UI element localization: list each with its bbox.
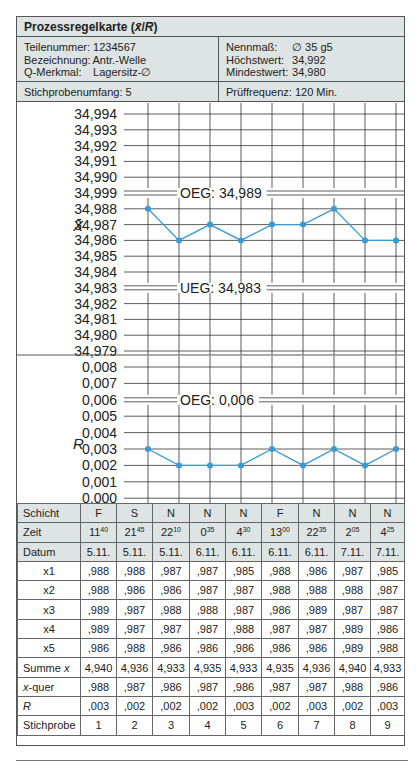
y-tick-label: 34,982 [74, 296, 117, 312]
table-cell: 6.11. [226, 542, 262, 561]
table-cell: ,987 [190, 581, 226, 600]
y-tick-label: 34,984 [74, 264, 117, 280]
table-row: x-quer,988,987,986,987,986,987,987,988,9… [18, 677, 405, 696]
data-point[interactable] [393, 237, 399, 243]
row-label: Summe x [18, 658, 81, 677]
table-cell: ,989 [81, 619, 117, 638]
data-point[interactable] [176, 462, 182, 468]
y-tick-label: 34,999 [74, 185, 117, 201]
table-cell: ,986 [153, 677, 190, 696]
control-limit-label: OEG: 0,006 [180, 392, 254, 408]
row-label: x-quer [18, 677, 81, 696]
table-cell: 6.11. [190, 542, 226, 561]
row-label: Schicht [18, 504, 81, 523]
table-cell: N [299, 504, 335, 523]
row-label: Zeit [18, 523, 81, 542]
data-point[interactable] [331, 206, 337, 212]
table-cell: ,003 [371, 696, 405, 715]
table-cell: ,986 [153, 581, 190, 600]
row-label: x2 [18, 581, 81, 600]
data-point[interactable] [300, 222, 306, 228]
table-cell: ,989 [335, 619, 371, 638]
table-cell: ,986 [262, 600, 299, 619]
table-row: SchichtFSNNNFNNN [18, 504, 405, 523]
table-cell: ,987 [335, 600, 371, 619]
table-cell: 2210 [153, 523, 190, 542]
table-cell: ,988 [117, 561, 153, 580]
table-cell: ,987 [335, 561, 371, 580]
table-row: Datum5.11.5.11.5.11.6.11.6.11.6.11.6.11.… [18, 542, 405, 561]
table-cell: 4,936 [299, 658, 335, 677]
table-cell: ,988 [226, 619, 262, 638]
table-cell: 4,933 [371, 658, 405, 677]
table-cell: ,986 [299, 639, 335, 658]
table-cell: ,003 [299, 696, 335, 715]
table-row: x5,986,988,986,986,986,986,986,989,988 [18, 639, 405, 658]
row-label: x5 [18, 639, 81, 658]
table-cell: ,002 [335, 696, 371, 715]
control-charts: 34,99434,99334,99234,99134,99034,999OEG:… [17, 17, 404, 503]
data-point[interactable] [362, 462, 368, 468]
data-point[interactable] [300, 462, 306, 468]
y-tick-label: 0,003 [82, 441, 117, 457]
table-cell: ,003 [226, 696, 262, 715]
y-tick-label: 34,988 [74, 201, 117, 217]
table-cell: 4 [190, 716, 226, 735]
table-cell: ,002 [190, 696, 226, 715]
table-cell: 7 [299, 716, 335, 735]
y-tick-label: 34,986 [74, 232, 117, 248]
table-cell: N [371, 504, 405, 523]
table-row: x2,988,986,986,987,987,988,988,988,987 [18, 581, 405, 600]
table-cell: ,986 [117, 581, 153, 600]
table-cell: N [226, 504, 262, 523]
table-cell: 7.11. [371, 542, 405, 561]
table-cell: F [81, 504, 117, 523]
y-tick-label: 34,980 [74, 327, 117, 343]
y-tick-label: 0,007 [82, 375, 117, 391]
data-point[interactable] [362, 237, 368, 243]
table-cell: ,986 [371, 677, 405, 696]
data-point[interactable] [207, 462, 213, 468]
table-cell: 8 [335, 716, 371, 735]
table-cell: ,986 [81, 639, 117, 658]
table-cell: F [262, 504, 299, 523]
table-cell: 5.11. [153, 542, 190, 561]
table-cell: ,986 [190, 639, 226, 658]
table-cell: ,987 [190, 677, 226, 696]
table-row: Zeit11402145221003543013002235205425 [18, 523, 405, 542]
data-point[interactable] [269, 446, 275, 452]
data-point[interactable] [238, 237, 244, 243]
y-tick-label: 0,008 [82, 359, 117, 375]
data-point[interactable] [207, 222, 213, 228]
table-cell: ,986 [262, 639, 299, 658]
data-point[interactable] [238, 462, 244, 468]
data-point[interactable] [393, 446, 399, 452]
data-point[interactable] [176, 237, 182, 243]
table-cell: ,989 [81, 600, 117, 619]
table-cell: ,988 [153, 600, 190, 619]
table-cell: ,986 [153, 639, 190, 658]
table-cell: 2 [117, 716, 153, 735]
data-point[interactable] [145, 206, 151, 212]
y-tick-label: 34,991 [74, 153, 117, 169]
table-cell: 4,940 [335, 658, 371, 677]
table-cell: ,988 [117, 639, 153, 658]
table-cell: 5.11. [117, 542, 153, 561]
table-cell: 430 [226, 523, 262, 542]
data-point[interactable] [269, 222, 275, 228]
y-tick-label: 0,005 [82, 408, 117, 424]
table-row: R,003,002,002,002,003,002,003,002,003 [18, 696, 405, 715]
y-tick-label: 34,990 [74, 169, 117, 185]
table-cell: ,988 [335, 677, 371, 696]
data-point[interactable] [331, 446, 337, 452]
table-cell: ,003 [81, 696, 117, 715]
data-point[interactable] [145, 446, 151, 452]
divider [16, 760, 408, 761]
table-cell: N [335, 504, 371, 523]
row-label: Stichprobe [18, 716, 81, 735]
measurement-table: SchichtFSNNNFNNNZeit11402145221003543013… [17, 503, 405, 736]
table-cell: ,988 [81, 561, 117, 580]
table-cell: ,987 [190, 619, 226, 638]
table-cell: ,986 [371, 619, 405, 638]
table-cell: ,987 [262, 619, 299, 638]
